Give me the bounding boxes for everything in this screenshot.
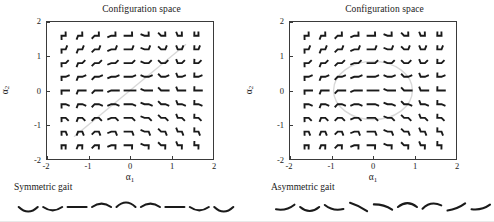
config-glyph [61,104,69,108]
config-glyph [61,132,67,136]
config-glyph [437,127,443,135]
config-glyph [124,118,135,121]
config-glyph [367,104,379,106]
gait-shape [117,202,136,207]
config-glyph [141,60,152,63]
config-glyph [141,144,149,150]
config-glyph [335,132,344,136]
config-glyph [107,60,118,65]
gait-shape [350,202,367,211]
config-glyph [77,104,87,108]
config-glyph [437,31,441,35]
config-glyph [304,118,311,122]
config-glyph [350,75,362,78]
config-glyph [124,75,136,77]
config-glyph [176,114,185,121]
config-glyph [176,45,183,49]
config-glyph [92,91,103,94]
plot-area [46,21,214,160]
x-tick-label: -2 [285,162,292,171]
x-tick-label: 1 [413,162,417,171]
config-glyph [367,31,375,35]
config-glyph [194,114,201,121]
config-glyph [158,142,165,149]
config-glyph [384,75,396,77]
config-glyph [320,132,327,136]
x-axis-title: α1 [46,172,214,183]
config-glyph [304,45,310,53]
config-glyph [92,132,101,136]
config-glyph [107,45,117,51]
config-glyph [401,31,408,35]
config-glyph [77,145,83,149]
glyph-grid-layer [61,31,202,149]
config-glyph [320,104,330,108]
config-glyph [176,31,182,35]
y-tick-label: 1 [37,52,41,61]
config-glyph [124,145,132,149]
gait-shape [214,207,233,212]
config-glyph [419,87,429,91]
config-glyph [107,118,118,121]
config-glyph [401,45,410,49]
config-glyph [141,130,151,136]
config-glyph [124,132,134,136]
gait-shape [422,202,441,209]
config-glyph [401,142,408,149]
config-glyph [77,118,86,122]
config-glyph [158,115,168,121]
config-glyph [437,86,445,90]
config-glyph [194,127,200,135]
config-glyph [401,60,411,63]
y-axis-title: α2 [244,86,255,94]
config-glyph [437,45,443,49]
config-glyph [320,31,326,39]
config-glyph [176,128,183,136]
config-glyph [158,129,167,136]
config-glyph [158,45,167,49]
y-tick-label: 2 [37,17,41,26]
config-glyph [61,75,69,81]
config-glyph [77,45,84,53]
config-glyph [384,31,392,35]
config-glyph [350,45,360,51]
config-glyph [141,45,151,49]
config-glyph [384,45,394,49]
y-tick-label: -1 [34,121,41,130]
config-glyph [401,115,411,121]
config-glyph [437,100,445,106]
config-glyph [77,91,87,95]
y-tick-label: 0 [37,86,41,95]
config-glyph [335,118,345,121]
config-glyph [107,75,119,78]
y-tick-label: -2 [34,156,41,165]
config-glyph [158,74,169,77]
config-glyph [77,60,86,67]
config-glyph [419,31,425,35]
x-tick-label: -1 [327,162,334,171]
config-glyph [335,91,346,94]
config-glyph [141,31,149,35]
config-glyph [92,60,102,66]
config-glyph [320,145,326,149]
config-glyph [92,31,99,38]
gait-shape [300,207,319,211]
config-glyph [107,31,115,37]
config-glyph [437,114,444,121]
config-glyph [384,144,392,150]
config-glyph [384,60,395,63]
config-glyph [77,75,87,81]
config-glyph [92,75,103,80]
config-glyph [384,130,394,136]
y-tick-label: 0 [280,86,284,95]
gait-shape [43,207,62,210]
config-glyph [350,145,358,149]
gait-shape [92,204,111,207]
config-glyph [419,73,429,77]
y-tick-label: -2 [277,156,284,165]
config-glyph [124,45,134,49]
config-glyph [304,31,308,39]
config-glyph [176,100,186,106]
config-glyph [194,59,201,63]
config-glyph [419,100,429,106]
